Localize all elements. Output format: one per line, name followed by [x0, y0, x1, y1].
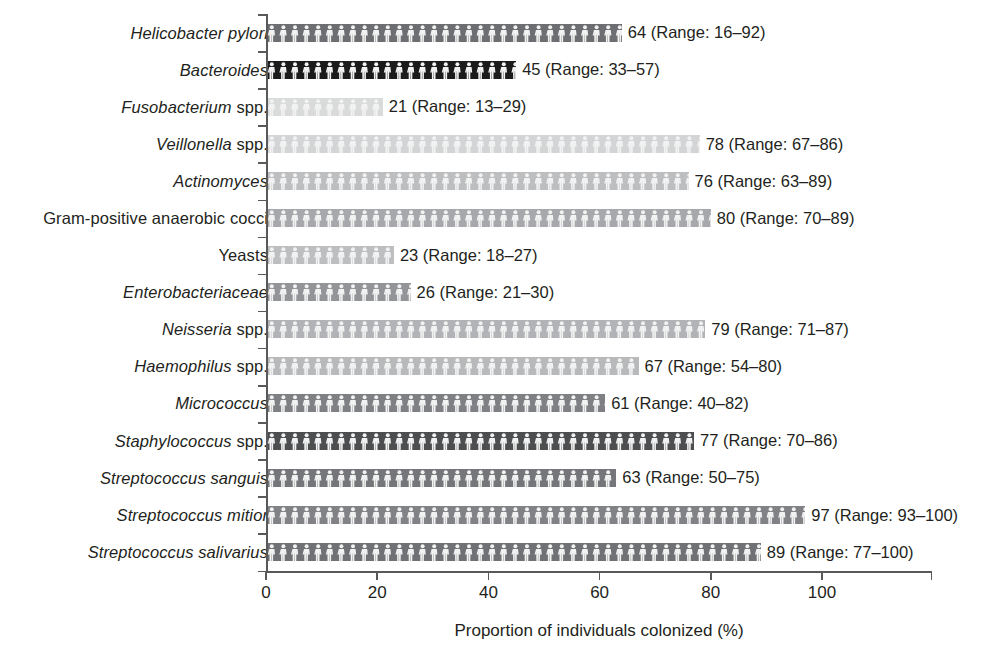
- y-axis-tick: [258, 422, 267, 424]
- chart-row: Staphylococcus spp.77 (Range: 70–86): [0, 422, 985, 459]
- chart-row: Streptococcus sanguis63 (Range: 50–75): [0, 459, 985, 496]
- bar: [266, 98, 383, 116]
- y-axis-tick: [258, 237, 267, 239]
- category-label-italic: Helicobacter pylori: [130, 23, 268, 41]
- chart-row: Veillonella spp.78 (Range: 67–86): [0, 125, 985, 162]
- bar-and-value: 23 (Range: 18–27): [266, 246, 537, 264]
- bar: [266, 209, 711, 227]
- category-label: Neisseria spp.: [162, 321, 268, 338]
- bar-and-value: 67 (Range: 54–80): [266, 357, 782, 375]
- category-label: Actinomyces: [173, 173, 268, 190]
- bar: [266, 357, 639, 375]
- chart-row: Enterobacteriaceae26 (Range: 21–30): [0, 274, 985, 311]
- category-label-italic: Haemophilus: [134, 357, 231, 375]
- bar: [266, 394, 605, 412]
- bar-chart-figure: Helicobacter pylori64 (Range: 16–92)Bact…: [0, 0, 985, 656]
- y-axis-tick: [258, 200, 267, 202]
- bar: [266, 283, 411, 301]
- bar-and-value: 21 (Range: 13–29): [266, 98, 526, 116]
- x-axis-title: Proportion of individuals colonized (%): [266, 622, 932, 639]
- category-label-roman: spp.: [232, 97, 268, 115]
- bar: [266, 469, 616, 487]
- x-axis-tick: [488, 571, 490, 580]
- bar-value-label: 78 (Range: 67–86): [706, 136, 844, 153]
- bar-and-value: 76 (Range: 63–89): [266, 172, 832, 190]
- bar-value-label: 67 (Range: 54–80): [645, 358, 783, 375]
- y-axis-tick: [258, 14, 267, 16]
- chart-row: Bacteroides45 (Range: 33–57): [0, 51, 985, 88]
- bar-value-label: 80 (Range: 70–89): [717, 210, 855, 227]
- category-label-italic: Streptococcus salivarius: [88, 543, 268, 561]
- category-label-italic: Streptococcus sanguis: [100, 468, 268, 486]
- chart-row: Haemophilus spp.67 (Range: 54–80): [0, 348, 985, 385]
- chart-row: Helicobacter pylori64 (Range: 16–92): [0, 14, 985, 51]
- chart-row: Gram-positive anaerobic cocci80 (Range: …: [0, 199, 985, 236]
- bar-value-label: 23 (Range: 18–27): [400, 247, 538, 264]
- category-label: Fusobacterium spp.: [121, 98, 268, 115]
- x-axis-tick: [599, 571, 601, 580]
- x-axis-tick-label: 100: [808, 584, 836, 601]
- x-axis-end-cap: [931, 571, 933, 580]
- category-label-roman: spp.: [232, 320, 268, 338]
- category-label-italic: Staphylococcus: [115, 431, 232, 449]
- x-axis-tick-label: 60: [590, 584, 609, 601]
- bar-value-label: 77 (Range: 70–86): [700, 432, 838, 449]
- category-label-italic: Veillonella: [156, 135, 232, 153]
- bar-and-value: 63 (Range: 50–75): [266, 469, 760, 487]
- chart-row: Actinomyces76 (Range: 63–89): [0, 162, 985, 199]
- bar-and-value: 64 (Range: 16–92): [266, 24, 765, 42]
- bar-value-label: 45 (Range: 33–57): [522, 61, 660, 78]
- y-axis-line: [266, 14, 268, 571]
- bar-and-value: 80 (Range: 70–89): [266, 209, 854, 227]
- x-axis-tick-label: 0: [261, 584, 270, 601]
- category-label-italic: Streptococcus mitior: [117, 506, 268, 524]
- bar-value-label: 21 (Range: 13–29): [389, 98, 527, 115]
- bar: [266, 172, 689, 190]
- bar-value-label: 89 (Range: 77–100): [767, 544, 914, 561]
- category-label-italic: Micrococcus: [175, 394, 268, 412]
- y-axis-tick: [258, 274, 267, 276]
- y-axis-tick: [258, 125, 267, 127]
- bar-and-value: 61 (Range: 40–82): [266, 394, 749, 412]
- chart-row: Streptococcus salivarius89 (Range: 77–10…: [0, 533, 985, 570]
- y-axis-tick: [258, 385, 267, 387]
- category-label-roman: Gram-positive anaerobic cocci: [43, 209, 268, 227]
- category-label: Streptococcus sanguis: [100, 469, 268, 486]
- category-label: Micrococcus: [175, 395, 268, 412]
- category-label-roman: spp.: [232, 135, 268, 153]
- bar-value-label: 26 (Range: 21–30): [417, 284, 555, 301]
- x-axis-tick: [710, 571, 712, 580]
- y-axis-tick: [258, 348, 267, 350]
- bar: [266, 135, 700, 153]
- chart-row: Neisseria spp.79 (Range: 71–87): [0, 311, 985, 348]
- bar-and-value: 89 (Range: 77–100): [266, 543, 914, 561]
- chart-row: Yeasts23 (Range: 18–27): [0, 237, 985, 274]
- bar-value-label: 64 (Range: 16–92): [628, 24, 766, 41]
- category-label: Bacteroides: [180, 61, 268, 78]
- category-label-italic: Bacteroides: [180, 60, 268, 78]
- bar-and-value: 78 (Range: 67–86): [266, 135, 843, 153]
- bar-and-value: 77 (Range: 70–86): [266, 432, 838, 450]
- category-label: Veillonella spp.: [156, 136, 268, 153]
- category-label-italic: Enterobacteriaceae: [123, 283, 268, 301]
- x-axis-tick-label: 80: [701, 584, 720, 601]
- category-label-roman: spp.: [232, 357, 268, 375]
- y-axis-tick: [258, 533, 267, 535]
- category-label-italic: Actinomyces: [173, 172, 268, 190]
- y-axis-tick: [258, 459, 267, 461]
- y-axis-tick: [258, 311, 267, 313]
- bar-and-value: 26 (Range: 21–30): [266, 283, 554, 301]
- bar: [266, 432, 694, 450]
- category-label-roman: Yeasts: [218, 246, 268, 264]
- bar-and-value: 97 (Range: 93–100): [266, 506, 958, 524]
- x-axis-tick: [265, 571, 267, 580]
- category-label: Helicobacter pylori: [130, 24, 268, 41]
- bar-value-label: 61 (Range: 40–82): [611, 395, 749, 412]
- category-label: Streptococcus mitior: [117, 507, 268, 524]
- chart-row: Micrococcus61 (Range: 40–82): [0, 385, 985, 422]
- category-label: Yeasts: [218, 247, 268, 264]
- chart-row: Fusobacterium spp.21 (Range: 13–29): [0, 88, 985, 125]
- category-label: Gram-positive anaerobic cocci: [43, 210, 268, 227]
- category-label: Haemophilus spp.: [134, 358, 268, 375]
- chart-rows: Helicobacter pylori64 (Range: 16–92)Bact…: [0, 14, 985, 570]
